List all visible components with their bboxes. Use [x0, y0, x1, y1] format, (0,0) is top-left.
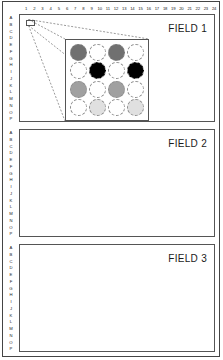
grid-cell[interactable] [107, 43, 126, 62]
field-block: ABCDEFGHIJKLMNOPFIELD 2 [5, 129, 217, 239]
row-letter: M [9, 212, 13, 217]
row-letter: A [10, 16, 13, 21]
row-letter: D [9, 266, 12, 271]
grid-disc [108, 62, 125, 79]
row-letter: K [10, 84, 13, 89]
grid-disc [127, 62, 144, 79]
row-letter: E [10, 273, 13, 278]
grid-disc [89, 62, 106, 79]
row-letter: F [10, 165, 13, 170]
column-tick: 22 [194, 6, 202, 11]
row-letter: K [10, 199, 13, 204]
field-block: ABCDEFGHIJKLMNOPFIELD 3 [5, 244, 217, 354]
row-letter: F [10, 280, 13, 285]
column-tick: 11 [104, 6, 112, 11]
inset-grid [69, 43, 145, 117]
row-letter: C [9, 260, 12, 265]
column-tick: 23 [202, 6, 210, 11]
row-letter: G [9, 287, 12, 292]
column-tick: 24 [210, 6, 218, 11]
grid-cell[interactable] [126, 80, 145, 99]
grid-disc [127, 99, 144, 116]
row-letter: G [9, 172, 12, 177]
grid-cell[interactable] [69, 99, 88, 118]
column-tick: 12 [112, 6, 120, 11]
grid-cell[interactable] [126, 43, 145, 62]
grid-cell[interactable] [69, 62, 88, 81]
row-letter: L [10, 90, 12, 95]
column-tick: 15 [136, 6, 144, 11]
grid-cell[interactable] [126, 99, 145, 118]
row-letter: A [10, 131, 13, 136]
grid-cell[interactable] [107, 80, 126, 99]
magnified-inset[interactable] [65, 39, 149, 121]
column-tick: 17 [153, 6, 161, 11]
row-letter: I [10, 70, 11, 75]
row-letter: N [9, 219, 12, 224]
grid-disc [108, 44, 125, 61]
column-tick: 21 [185, 6, 193, 11]
grid-cell[interactable] [88, 99, 107, 118]
column-tick: 3 [38, 6, 46, 11]
column-tick: 19 [169, 6, 177, 11]
row-letter: O [9, 341, 12, 346]
row-letter: M [9, 97, 13, 102]
row-letter: P [10, 347, 13, 352]
row-letter: I [10, 300, 11, 305]
column-tick: 16 [145, 6, 153, 11]
row-letter: P [10, 232, 13, 237]
grid-cell[interactable] [107, 62, 126, 81]
grid-cell[interactable] [107, 99, 126, 118]
grid-cell[interactable] [69, 80, 88, 99]
row-letter: G [9, 57, 12, 62]
column-tick: 13 [120, 6, 128, 11]
column-tick: 4 [47, 6, 55, 11]
grid-disc [89, 81, 106, 98]
row-letter: H [9, 63, 12, 68]
field-rectangle[interactable]: FIELD 3 [19, 244, 215, 352]
row-letter: I [10, 185, 11, 190]
row-letter: F [10, 50, 13, 55]
grid-disc [108, 81, 125, 98]
grid-disc [89, 44, 106, 61]
grid-disc [127, 81, 144, 98]
row-letter: D [9, 151, 12, 156]
grid-disc [108, 99, 125, 116]
row-letter: L [10, 320, 12, 325]
row-letter: M [9, 327, 13, 332]
column-tick: 5 [55, 6, 63, 11]
row-letter: A [10, 246, 13, 251]
column-tick: 8 [79, 6, 87, 11]
row-letter: E [10, 158, 13, 163]
grid-cell[interactable] [88, 62, 107, 81]
row-letter: B [10, 138, 13, 143]
row-letter: O [9, 226, 12, 231]
grid-disc [70, 81, 87, 98]
row-letter: P [10, 117, 13, 122]
column-tick: 10 [96, 6, 104, 11]
row-letter: B [10, 23, 13, 28]
row-letter: K [10, 314, 13, 319]
row-letter: C [9, 145, 12, 150]
row-letter: H [9, 293, 12, 298]
row-letter-rail: ABCDEFGHIJKLMNOP [5, 246, 17, 352]
row-letter: C [9, 30, 12, 35]
grid-cell[interactable] [88, 80, 107, 99]
field-block: ABCDEFGHIJKLMNOPFIELD 1 [5, 14, 217, 124]
field-label: FIELD 2 [168, 138, 207, 150]
row-letter-rail: ABCDEFGHIJKLMNOP [5, 131, 17, 237]
grid-cell[interactable] [126, 62, 145, 81]
column-tick: 2 [30, 6, 38, 11]
column-tick: 14 [128, 6, 136, 11]
grid-cell[interactable] [88, 43, 107, 62]
field-label: FIELD 3 [168, 253, 207, 265]
row-letter: O [9, 111, 12, 116]
field-rectangle[interactable]: FIELD 2 [19, 129, 215, 237]
field-label: FIELD 1 [168, 23, 207, 35]
row-letter: N [9, 334, 12, 339]
grid-cell[interactable] [69, 43, 88, 62]
column-tick: 20 [177, 6, 185, 11]
figure-canvas: 123456789101112131415161718192021222324 … [0, 0, 223, 360]
row-letter: J [10, 307, 12, 312]
row-letter: J [10, 192, 12, 197]
